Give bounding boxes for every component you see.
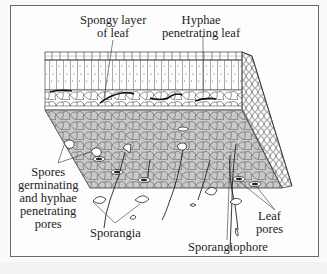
label-spongy-layer: Spongy layer of leaf <box>80 14 146 40</box>
label-leaf-pores: Leaf pores <box>256 210 283 236</box>
label-spores-germinating: Spores germinating and hyphae penetratin… <box>18 166 78 231</box>
label-hyphae-penetrating-leaf: Hyphae penetrating leaf <box>162 14 240 40</box>
upper-epidermis <box>45 52 242 60</box>
label-sporangiophore: Sporangiophore <box>188 241 268 254</box>
bottom-strip <box>0 262 327 274</box>
label-sporangia: Sporangia <box>90 227 141 240</box>
leaf-underside <box>45 110 282 188</box>
spongy-layer <box>45 90 242 110</box>
palisade-layer <box>45 60 242 90</box>
